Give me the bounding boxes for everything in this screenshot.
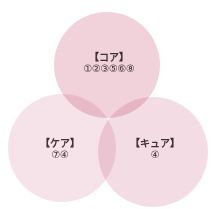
cure-items: ④ (130, 149, 180, 160)
cure-title: 【キュア】 (130, 138, 180, 149)
core-items: ①②③⑤⑥⑧ (84, 63, 135, 74)
core-label: 【コア】 ①②③⑤⑥⑧ (84, 52, 135, 74)
care-items: ⑦④ (40, 149, 80, 160)
care-title: 【ケア】 (40, 138, 80, 149)
care-label: 【ケア】 ⑦④ (40, 138, 80, 160)
venn-diagram: 【コア】 ①②③⑤⑥⑧ 【ケア】 ⑦④ 【キュア】 ④ (0, 0, 221, 209)
cure-label: 【キュア】 ④ (130, 138, 180, 160)
core-title: 【コア】 (84, 52, 135, 63)
